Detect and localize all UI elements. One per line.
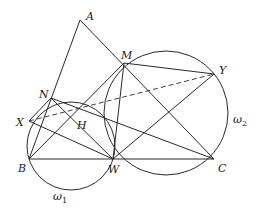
circle-omega2 — [104, 51, 228, 175]
label-W: W — [108, 164, 119, 175]
segment-XW — [29, 121, 113, 159]
label-B: B — [18, 163, 26, 174]
label-C: C — [218, 163, 226, 174]
segment-XN — [29, 98, 51, 121]
segment-AB — [29, 20, 80, 159]
segment-NC — [51, 98, 214, 159]
label-omega2: ω2 — [233, 114, 247, 128]
segment-MY — [124, 63, 214, 74]
label-Y: Y — [219, 65, 226, 76]
label-N: N — [39, 89, 49, 100]
label-M: M — [121, 50, 132, 61]
circle-omega1 — [27, 102, 115, 190]
label-omega1: ω1 — [53, 191, 67, 205]
segment-BM — [29, 63, 124, 159]
geometry-figure: A M Y N X H B W C ω1 ω2 — [0, 0, 258, 211]
label-A: A — [86, 11, 94, 22]
diagram-canvas — [0, 0, 258, 211]
label-X: X — [16, 117, 24, 128]
segment-AC — [80, 20, 214, 159]
label-H: H — [77, 120, 87, 131]
